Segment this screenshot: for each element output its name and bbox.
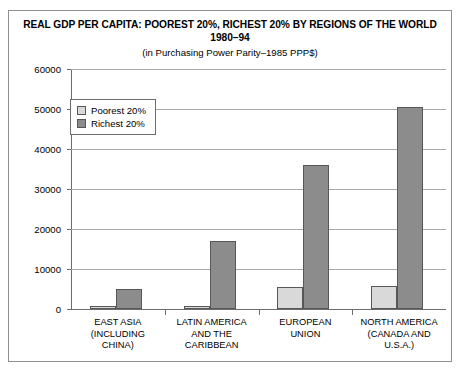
y-tick-label: 30000	[1, 184, 61, 195]
bar-richest	[303, 165, 329, 309]
chart-frame: REAL GDP PER CAPITA: POOREST 20%, RICHES…	[8, 10, 452, 362]
bar-poorest	[277, 287, 303, 309]
x-axis-labels: EAST ASIA (INCLUDING CHINA)LATIN AMERICA…	[71, 317, 446, 367]
y-tick-mark	[67, 229, 71, 230]
y-tick-mark	[67, 309, 71, 310]
y-tick-label: 0	[1, 304, 61, 315]
bar-poorest	[184, 306, 210, 309]
chart-title: REAL GDP PER CAPITA: POOREST 20%, RICHES…	[9, 19, 451, 44]
bar-richest	[397, 107, 423, 309]
legend-item[interactable]: Richest 20%	[77, 117, 146, 130]
bar-poorest	[90, 306, 116, 309]
legend-label: Poorest 20%	[91, 105, 146, 116]
y-tick-mark	[67, 69, 71, 70]
gridline	[71, 229, 446, 230]
y-tick-mark	[67, 269, 71, 270]
x-tick-mark	[259, 310, 260, 315]
legend-swatch-icon	[77, 106, 86, 115]
x-axis-label: EUROPEAN UNION	[259, 317, 353, 340]
gridline	[71, 269, 446, 270]
x-axis-label: NORTH AMERICA (CANADA AND U.S.A.)	[352, 317, 446, 352]
x-tick-mark	[352, 310, 353, 315]
legend-item[interactable]: Poorest 20%	[77, 104, 146, 117]
bar-richest	[210, 241, 236, 309]
legend-swatch-icon	[77, 119, 86, 128]
legend-label: Richest 20%	[91, 118, 145, 129]
chart-legend: Poorest 20%Richest 20%	[70, 99, 156, 135]
bar-richest	[116, 289, 142, 309]
y-tick-label: 40000	[1, 144, 61, 155]
x-axis-label: LATIN AMERICA AND THE CARIBBEAN	[165, 317, 259, 352]
bar-poorest	[371, 286, 397, 309]
y-tick-label: 20000	[1, 224, 61, 235]
y-tick-label: 50000	[1, 104, 61, 115]
chart-title-block: REAL GDP PER CAPITA: POOREST 20%, RICHES…	[9, 19, 451, 59]
gridline	[71, 149, 446, 150]
y-tick-mark	[67, 189, 71, 190]
chart-subtitle: (in Purchasing Power Parity–1985 PPP$)	[9, 46, 451, 59]
gridline	[71, 189, 446, 190]
gridline	[71, 69, 446, 70]
y-tick-label: 10000	[1, 264, 61, 275]
y-tick-label: 60000	[1, 64, 61, 75]
x-axis-label: EAST ASIA (INCLUDING CHINA)	[71, 317, 165, 352]
x-tick-mark	[165, 310, 166, 315]
y-tick-mark	[67, 149, 71, 150]
